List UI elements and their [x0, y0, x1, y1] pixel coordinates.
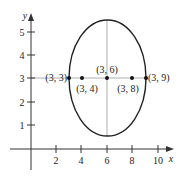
- y-tick-label: 2: [20, 97, 25, 108]
- point-vertex-left: [67, 76, 71, 80]
- x-tick-label: 6: [105, 155, 110, 166]
- x-tick-label: 4: [79, 155, 84, 166]
- point-label: (3, 8): [117, 83, 139, 95]
- x-axis-label: x: [168, 153, 174, 164]
- y-axis-arrow-icon: [28, 13, 34, 21]
- x-ticks: 2 4 6 8 10: [54, 145, 164, 166]
- point-label: (3, 6): [96, 64, 118, 76]
- point-focus-right: [130, 76, 134, 80]
- x-tick-label: 2: [54, 155, 59, 166]
- y-tick-label: 1: [20, 120, 25, 131]
- x-axis-arrow-icon: [166, 146, 174, 152]
- y-tick-label: 4: [20, 50, 25, 61]
- y-ticks: 1 2 3 4 5: [20, 27, 36, 131]
- point-label: (3, 4): [76, 83, 98, 95]
- x-tick-label: 10: [153, 155, 163, 166]
- x-tick-label: 8: [130, 155, 135, 166]
- point-focus-left: [80, 76, 84, 80]
- point-label: (3, 9): [148, 72, 170, 84]
- ellipse-diagram: 2 4 6 8 10 x 1 2 3 4 5 y (3, 3) (3, 4) (…: [0, 0, 181, 177]
- y-tick-label: 3: [20, 73, 25, 84]
- y-tick-label: 5: [20, 27, 25, 38]
- point-label: (3, 3): [45, 72, 67, 84]
- point-center: [105, 76, 109, 80]
- y-axis-label: y: [22, 10, 28, 21]
